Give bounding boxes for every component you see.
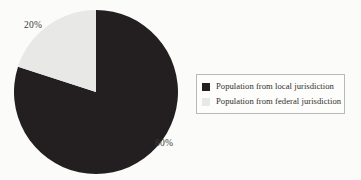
- slice-label-federal-percent: 20%: [24, 21, 42, 31]
- legend-label-local: Population from local jurisdiction: [216, 82, 334, 91]
- chart-legend: Population from local jurisdiction Popul…: [196, 74, 345, 114]
- pie-chart-figure: 20% 80% Population from local jurisdicti…: [0, 0, 361, 180]
- slice-label-local-percent: 80%: [155, 139, 173, 149]
- legend-item-federal[interactable]: Population from federal jurisdiction: [202, 94, 339, 109]
- legend-item-local[interactable]: Population from local jurisdiction: [202, 79, 339, 94]
- legend-swatch-local-icon: [202, 83, 210, 91]
- pie-plot-area: 20% 80%: [0, 0, 195, 180]
- legend-label-federal: Population from federal jurisdiction: [216, 97, 341, 106]
- legend-swatch-federal-icon: [202, 98, 210, 106]
